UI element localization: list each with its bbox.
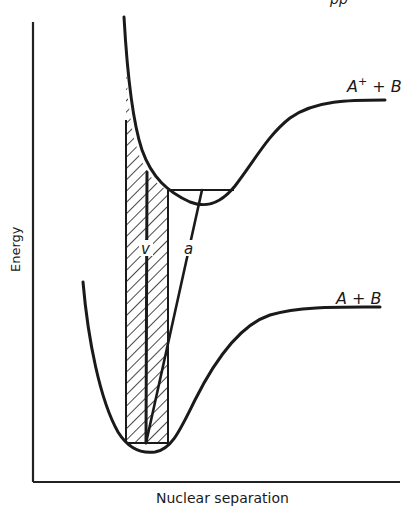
adiabatic-transition-label: a xyxy=(184,240,193,258)
upper-curve-label: A+ + B xyxy=(346,75,402,96)
vertical-transition-arrow xyxy=(146,172,147,443)
lower-curve-label: A + B xyxy=(335,289,382,308)
axes xyxy=(33,22,400,482)
potential-energy-diagram: v a A+ + B A + B Energy Nuclear separati… xyxy=(0,0,418,511)
vertical-transition-label: v xyxy=(141,240,151,258)
upper-potential-curve xyxy=(124,17,385,205)
x-axis-label: Nuclear separation xyxy=(156,490,289,506)
y-axis-label: Energy xyxy=(8,226,23,272)
cropped-top-text: pp xyxy=(329,0,348,7)
